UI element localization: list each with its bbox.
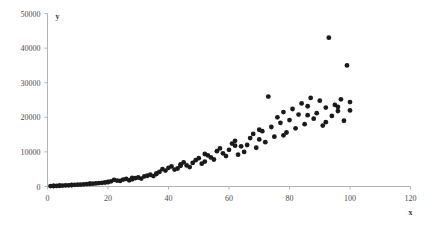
data-point [248, 136, 253, 141]
data-point [281, 110, 286, 115]
data-point [305, 104, 310, 109]
data-point [345, 63, 350, 68]
data-point [272, 134, 277, 139]
data-point [311, 116, 316, 121]
data-point [187, 165, 192, 170]
scatter-chart: 020406080100120 010000200003000040000500… [0, 0, 445, 226]
data-point [348, 108, 353, 113]
y-tick-label: 50000 [21, 10, 41, 19]
y-tick-label: 30000 [21, 79, 41, 88]
data-point [69, 183, 74, 188]
data-point [348, 100, 353, 105]
data-point [57, 183, 62, 188]
data-point [218, 146, 223, 151]
x-axis-title: x [409, 208, 413, 217]
data-point [339, 97, 344, 102]
x-tick-label: 40 [165, 194, 173, 203]
data-point [233, 143, 238, 148]
data-point [323, 120, 328, 125]
data-point [87, 181, 92, 186]
y-tick-label: 20000 [21, 113, 41, 122]
data-point [329, 114, 334, 119]
data-point [242, 150, 247, 155]
data-point [336, 109, 341, 114]
data-point [336, 105, 341, 110]
data-point [342, 118, 347, 123]
data-point [236, 152, 241, 157]
data-point [257, 137, 262, 142]
data-point [196, 156, 201, 161]
data-point [233, 138, 238, 143]
data-point [317, 98, 322, 103]
y-tick-label: 0 [37, 183, 41, 192]
data-point [202, 152, 207, 157]
data-point [269, 125, 274, 130]
data-point [263, 140, 268, 145]
axis-titles-group: yx [56, 12, 413, 217]
data-point [266, 94, 271, 99]
data-point [326, 35, 331, 40]
x-tick-label: 20 [104, 194, 112, 203]
plot-area: 020406080100120 010000200003000040000500… [0, 0, 445, 226]
data-point [245, 143, 250, 148]
x-tick-label: 100 [344, 194, 356, 203]
data-point [305, 113, 310, 118]
x-tick-label: 120 [405, 194, 417, 203]
y-tick-labels-group: 01000020000300004000050000 [21, 10, 41, 192]
axes-group [48, 14, 411, 187]
data-point [224, 154, 229, 159]
data-point [293, 126, 298, 131]
data-point [211, 157, 216, 162]
data-points-group [48, 35, 352, 188]
y-axis-title: y [56, 12, 60, 21]
y-tick-label: 40000 [21, 44, 41, 53]
data-point [254, 145, 259, 150]
data-point [299, 101, 304, 106]
data-point [51, 184, 56, 189]
data-point [302, 122, 307, 127]
data-point [323, 105, 328, 110]
data-point [251, 132, 256, 137]
data-point [296, 112, 301, 117]
data-point [278, 120, 283, 125]
data-point [308, 96, 313, 101]
data-point [239, 144, 244, 149]
data-point [227, 147, 232, 152]
data-point [257, 127, 262, 132]
x-tick-labels-group: 020406080100120 [46, 194, 417, 203]
data-point [130, 175, 135, 180]
data-point [314, 111, 319, 116]
data-point [154, 171, 159, 176]
data-point [106, 179, 111, 184]
data-point [281, 133, 286, 138]
x-tick-label: 0 [46, 194, 50, 203]
data-point [287, 118, 292, 123]
data-point [178, 163, 183, 168]
y-tick-label: 10000 [21, 148, 41, 157]
data-point [275, 115, 280, 120]
x-tick-label: 80 [286, 194, 294, 203]
x-tick-label: 60 [225, 194, 233, 203]
tick-marks-group [45, 14, 411, 190]
data-point [290, 107, 295, 112]
data-point [202, 159, 207, 164]
